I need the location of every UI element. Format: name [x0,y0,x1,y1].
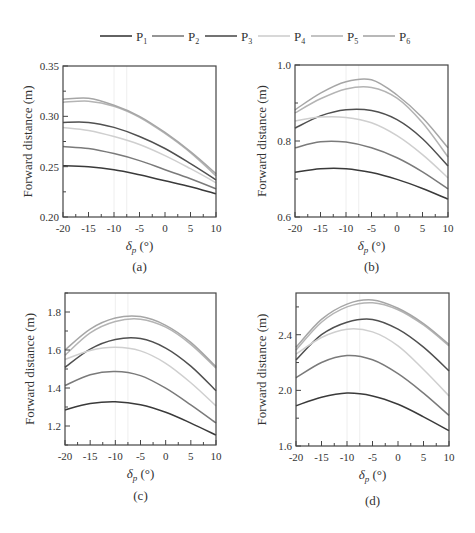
x-tick-label: 5 [421,451,427,463]
y-tick-label: 0.8 [277,135,291,147]
y-tick-label: 0.6 [277,211,291,223]
figure: P1P2P3P4P5P6 -20-15-10-505100.200.250.30… [0,0,475,533]
panel-label: (d) [365,493,380,508]
x-tick-label: 10 [443,222,455,234]
series-line-p5 [295,87,448,157]
legend-item-p1: P1 [100,29,147,46]
legend-item-p5: P5 [311,29,358,46]
x-tick-label: 10 [211,222,223,234]
y-tick-label: 1.4 [47,382,61,394]
x-tick-label: 5 [188,222,194,234]
series-line-p5 [65,319,216,368]
legend: P1P2P3P4P5P6 [100,29,410,46]
y-tick-label: 2.0 [278,384,292,396]
x-tick-label: -20 [56,222,71,234]
series-line-p2 [65,371,216,423]
y-axis-label: Forward distance (m) [22,313,37,425]
x-tick-label: -5 [136,450,146,462]
series-line-p2 [295,141,448,189]
series-line-p4 [296,329,449,396]
x-tick-label: 0 [394,222,400,234]
x-tick-label: -5 [367,222,377,234]
x-tick-label: -10 [108,450,123,462]
x-tick-label: 10 [444,451,456,463]
series-line-p2 [296,356,449,416]
x-axis-label: δp (°) [359,467,387,484]
x-axis-label: δp (°) [358,238,386,255]
legend-item-p6: P6 [363,29,410,46]
chart-panel-d: -20-15-10-505101.62.02.4Forward distance… [254,293,455,508]
legend-item-p4: P4 [258,29,305,46]
y-axis-label: Forward distance (m) [254,314,269,426]
x-tick-label: -15 [83,450,98,462]
y-tick-label: 1.6 [278,440,292,452]
legend-label: P1 [136,29,147,46]
legend-label: P3 [241,29,252,46]
y-axis-label: Forward distance (m) [254,85,269,197]
y-tick-label: 1.6 [47,344,61,356]
chart-panel-c: -20-15-10-505101.21.41.61.8Forward dista… [22,293,222,503]
chart-panel-a: -20-15-10-505100.200.250.300.35Forward d… [20,60,222,274]
y-tick-label: 0.25 [40,161,60,173]
legend-label: P2 [188,29,199,46]
x-tick-label: 5 [188,450,194,462]
x-axis-label: δp (°) [126,238,154,255]
y-tick-label: 0.30 [40,110,60,122]
y-tick-label: 1.8 [47,306,61,318]
x-tick-label: -20 [288,222,303,234]
panel-label: (b) [364,259,379,274]
series-line-p1 [296,393,449,431]
x-tick-label: -10 [339,222,354,234]
y-tick-label: 0.35 [40,60,60,72]
x-tick-label: 0 [162,222,168,234]
y-tick-label: 2.4 [278,329,292,341]
series-line-p6 [65,316,216,367]
y-tick-label: 0.20 [40,211,60,223]
x-tick-label: 5 [420,222,426,234]
x-tick-label: -15 [81,222,96,234]
x-tick-label: 0 [395,451,401,463]
chart-panel-b: -20-15-10-505100.60.81.0Forward distance… [254,59,454,274]
x-tick-label: -20 [58,450,73,462]
legend-label: P4 [294,29,305,46]
x-tick-label: -20 [289,451,304,463]
legend-label: P6 [399,29,410,46]
x-axis-label: δp (°) [127,466,155,483]
legend-item-p3: P3 [205,29,252,46]
y-tick-label: 1.0 [277,59,291,71]
series-line-p6 [295,79,448,148]
x-tick-label: -5 [368,451,378,463]
y-tick-label: 1.2 [47,420,61,432]
plot-frame [63,66,216,217]
y-axis-label: Forward distance (m) [20,86,35,198]
x-tick-label: -10 [340,451,355,463]
x-tick-label: 10 [211,450,223,462]
x-tick-label: -5 [135,222,145,234]
panel-label: (a) [132,259,146,274]
x-tick-label: -10 [107,222,122,234]
series-line-p4 [65,347,216,406]
panel-label: (c) [133,488,147,503]
chart-panels: -20-15-10-505100.200.250.300.35Forward d… [20,59,455,508]
legend-item-p2: P2 [152,29,199,46]
x-tick-label: -15 [313,222,328,234]
plot-frame [296,293,449,446]
legend-label: P5 [347,29,358,46]
x-tick-label: 0 [163,450,169,462]
x-tick-label: -15 [314,451,329,463]
